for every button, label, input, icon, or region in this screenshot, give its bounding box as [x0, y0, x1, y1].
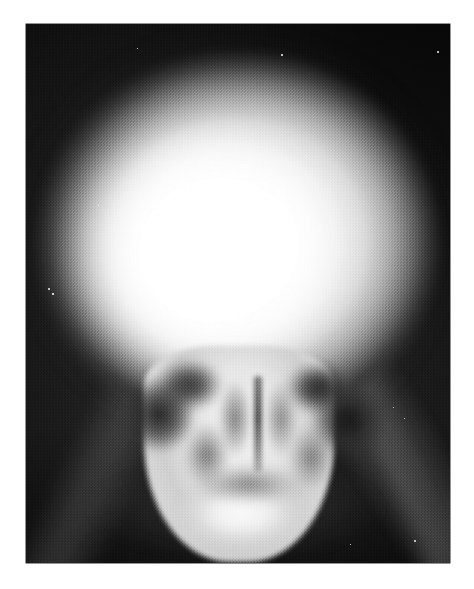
- petrous-ridge: [194, 464, 304, 504]
- page-canvas: [0, 0, 474, 589]
- nasal-septum: [254, 376, 262, 472]
- radiograph-film-plate: [26, 24, 450, 563]
